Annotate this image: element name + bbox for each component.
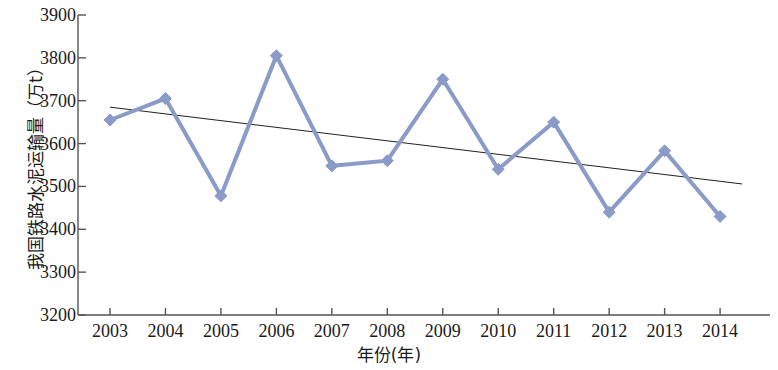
data-point-marker xyxy=(104,114,116,126)
plot-area xyxy=(0,0,778,370)
data-line-series xyxy=(110,56,720,217)
data-point-markers xyxy=(104,50,726,223)
axes xyxy=(78,15,770,315)
line-chart: 我国铁路水泥运输量（万t） 39003800370036003500340033… xyxy=(0,0,778,370)
